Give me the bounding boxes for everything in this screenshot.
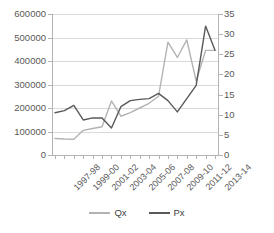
legend-swatch-qx	[89, 212, 110, 214]
x-axis-tick-mark	[215, 156, 216, 159]
y-axis-left-tick-label: 500000	[0, 33, 46, 43]
x-axis-tick-mark	[206, 156, 207, 159]
y-axis-right-tick-mark	[219, 14, 223, 15]
y-axis-left-tick-label: 200000	[0, 103, 46, 113]
y-axis-right-tick-mark	[219, 155, 223, 156]
legend-swatch-px	[149, 212, 170, 214]
chart-legend: QxPx	[0, 207, 274, 218]
legend-item-qx[interactable]: Qx	[89, 207, 126, 218]
y-axis-left-tick-label: 400000	[0, 56, 46, 66]
x-axis-tick-mark	[83, 156, 84, 159]
chart-container: 0100000200000300000400000500000600000 05…	[0, 0, 274, 233]
y-axis-left-tick-mark	[48, 132, 52, 133]
x-axis-tick-mark	[111, 156, 112, 159]
x-axis-tick-mark	[74, 156, 75, 159]
legend-label: Qx	[114, 207, 126, 218]
y-axis-left-tick-mark	[48, 85, 52, 86]
y-axis-right-tick-mark	[219, 54, 223, 55]
series-line-qx	[55, 40, 215, 139]
y-axis-right-tick-mark	[219, 74, 223, 75]
x-axis-tick-mark	[93, 156, 94, 159]
x-axis-tick-mark	[168, 156, 169, 159]
y-axis-right-tick-mark	[219, 135, 223, 136]
x-axis-tick-mark	[130, 156, 131, 159]
y-axis-right-tick-mark	[219, 95, 223, 96]
x-axis-tick-mark	[196, 156, 197, 159]
legend-item-px[interactable]: Px	[149, 207, 185, 218]
x-axis-tick-mark	[55, 156, 56, 159]
x-axis-tick-mark	[149, 156, 150, 159]
x-axis-tick-mark	[159, 156, 160, 159]
x-axis-tick-mark	[64, 156, 65, 159]
legend-label: Px	[174, 207, 185, 218]
y-axis-left-tick-label: 300000	[0, 80, 46, 90]
y-axis-right-tick-label: 25	[224, 49, 246, 59]
x-axis-tick-mark	[140, 156, 141, 159]
y-axis-right-tick-label: 10	[224, 110, 246, 120]
y-axis-right-tick-label: 35	[224, 9, 246, 19]
plot-area	[52, 14, 218, 155]
y-axis-left-tick-mark	[48, 155, 52, 156]
y-axis-right-tick-label: 15	[224, 90, 246, 100]
series-line-px	[55, 26, 215, 128]
y-axis-left-tick-label: 0	[0, 150, 46, 160]
y-axis-left-tick-label: 600000	[0, 9, 46, 19]
x-axis-tick-mark	[102, 156, 103, 159]
x-axis-tick-mark	[187, 156, 188, 159]
y-axis-right-tick-label: 5	[224, 130, 246, 140]
x-axis-tick-mark	[121, 156, 122, 159]
y-axis-right-tick-mark	[219, 34, 223, 35]
y-axis-left-line	[52, 14, 53, 156]
x-axis-line	[52, 155, 219, 156]
y-axis-right-tick-label: 0	[224, 150, 246, 160]
y-axis-right-tick-label: 30	[224, 29, 246, 39]
y-axis-left-tick-mark	[48, 61, 52, 62]
y-axis-left-tick-label: 100000	[0, 127, 46, 137]
y-axis-right-tick-mark	[219, 115, 223, 116]
y-axis-left-tick-mark	[48, 108, 52, 109]
series-lines	[52, 14, 218, 155]
x-axis-tick-mark	[177, 156, 178, 159]
y-axis-right-tick-label: 20	[224, 69, 246, 79]
y-axis-left-tick-mark	[48, 14, 52, 15]
y-axis-left-tick-mark	[48, 38, 52, 39]
